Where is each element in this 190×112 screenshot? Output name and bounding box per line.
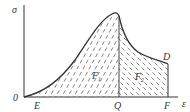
point-d-label: D [162,51,171,62]
sigma-axis-label: σ [12,4,18,15]
hatch-line [48,10,98,100]
hatch-line [0,10,78,100]
hatch-line [0,10,44,100]
hatch-line [0,10,66,100]
hatch-line [72,10,122,100]
hatch-line [30,10,120,100]
region-f2-hatch [0,10,190,100]
hatch-line [0,10,84,100]
hatch-line [90,10,140,100]
hatch-line [66,10,116,100]
hatch-line [30,10,80,100]
hatch-line [78,10,128,100]
hatch-line [0,10,60,100]
hatch-line [60,10,110,100]
hatch-line [0,10,8,100]
hatch-line [0,10,14,100]
hatch-line [18,10,108,100]
hatch-line [0,10,32,100]
hatch-line [0,10,38,100]
hatch-line [6,10,96,100]
hatch-line [0,10,50,100]
hatch-line [12,10,102,100]
hatch-line [108,10,158,100]
hatch-line [0,10,26,100]
region-f1-label: F1 [91,70,101,82]
hatch-line [0,10,20,100]
epsilon-axis-label: ε [182,98,186,109]
point-f-label: F [163,100,171,111]
hatch-line [0,10,2,100]
hatch-line [12,10,62,100]
region-f1-hatch [0,10,176,100]
point-q-label: Q [114,100,122,111]
origin-label: 0 [13,92,18,103]
stress-strain-diagram: σ ε 0 E Q F D F1 F2 [0,0,190,112]
hatch-line [84,10,134,100]
hatch-line [18,10,68,100]
hatch-line [0,10,90,100]
region-f2-label: F2 [134,71,144,83]
point-e-label: E [33,100,40,111]
